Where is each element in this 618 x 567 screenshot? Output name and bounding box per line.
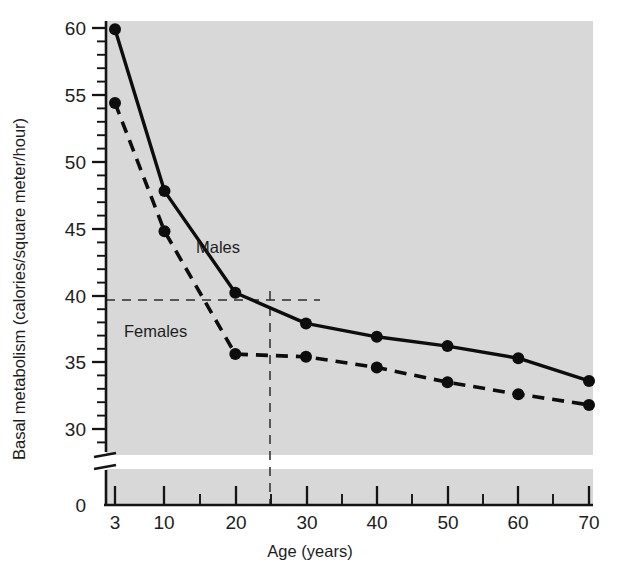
data-point (512, 388, 524, 400)
x-tick-label-70: 70 (578, 512, 599, 533)
data-point (109, 97, 121, 109)
data-point (159, 225, 171, 237)
data-point (442, 340, 454, 352)
y-tick-label-60: 60 (65, 18, 86, 39)
x-tick-label-30: 30 (296, 512, 317, 533)
plot-area-background-lower (106, 469, 593, 505)
data-point (583, 399, 595, 411)
y-axis-minor-ticks (97, 41, 106, 442)
data-point (159, 185, 171, 197)
y-axis-major-ticks (92, 28, 106, 429)
y-axis-title: Basal metabolism (calories/square meter/… (10, 118, 28, 460)
data-point (583, 375, 595, 387)
x-tick-label-60: 60 (507, 512, 528, 533)
x-tick-label-3: 3 (110, 512, 121, 533)
data-point (300, 317, 312, 329)
data-point (512, 352, 524, 364)
series-annotation-females: Females (124, 322, 187, 340)
axis-break-gap (106, 455, 593, 469)
y-tick-label-40: 40 (65, 286, 86, 307)
y-tick-label-45: 45 (65, 219, 86, 240)
y-tick-label-0: 0 (75, 495, 86, 516)
x-tick-label-40: 40 (366, 512, 387, 533)
y-tick-label-55: 55 (65, 85, 86, 106)
data-point (229, 287, 241, 299)
y-tick-label-50: 50 (65, 152, 86, 173)
data-point (442, 376, 454, 388)
x-tick-label-20: 20 (225, 512, 246, 533)
data-point (109, 23, 121, 35)
data-point (371, 362, 383, 374)
data-point (229, 348, 241, 360)
data-point (371, 331, 383, 343)
basal-metabolism-chart: 60 55 50 45 40 35 30 0 Basal metabolism … (0, 0, 618, 567)
chart-svg: 60 55 50 45 40 35 30 0 Basal metabolism … (0, 0, 618, 567)
y-tick-label-35: 35 (65, 352, 86, 373)
data-point (300, 351, 312, 363)
series-annotation-males: Males (196, 238, 240, 256)
x-tick-label-50: 50 (437, 512, 458, 533)
x-tick-label-10: 10 (153, 512, 174, 533)
x-axis-title: Age (years) (267, 542, 352, 560)
y-tick-label-30: 30 (65, 419, 86, 440)
